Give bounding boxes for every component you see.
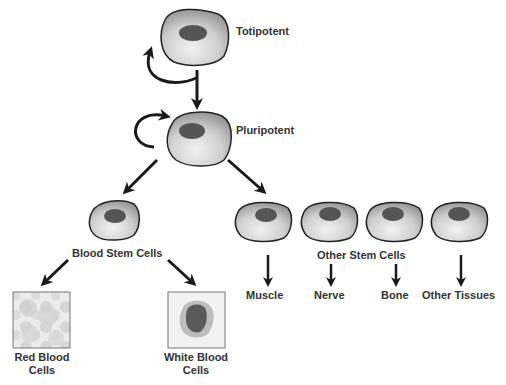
totipotent-label: Totipotent <box>236 25 289 38</box>
pluripotent-cell <box>167 112 231 166</box>
white-blood-line1: White Blood <box>160 351 232 364</box>
red-blood-cells-image <box>13 292 70 348</box>
totipotent-cell <box>161 9 228 65</box>
white-blood-cells-label: White Blood Cells <box>160 351 232 377</box>
bone-label: Bone <box>381 289 409 302</box>
red-blood-line1: Red Blood <box>10 351 74 364</box>
nerve-label: Nerve <box>314 289 345 302</box>
blood-stem-cells-label: Blood Stem Cells <box>72 247 162 260</box>
muscle-label: Muscle <box>246 289 283 302</box>
arrow-pluripotent-to-other <box>228 160 262 190</box>
muscle-stem-cell <box>235 202 291 241</box>
arrow-to-red-blood <box>45 260 68 282</box>
arrow-to-white-blood <box>168 260 192 282</box>
blood-stem-cell <box>89 201 139 240</box>
red-blood-line2: Cells <box>10 364 74 377</box>
nerve-stem-cell <box>301 202 357 241</box>
other-stem-cells-label: Other Stem Cells <box>317 249 406 262</box>
diagram-canvas <box>0 0 506 385</box>
other-tissues-label: Other Tissues <box>422 289 495 302</box>
self-renewal-arrow-pluripotent <box>136 115 165 147</box>
bone-stem-cell <box>366 202 422 241</box>
pluripotent-label: Pluripotent <box>236 124 294 137</box>
arrow-pluripotent-to-blood <box>127 160 157 190</box>
red-blood-cells-label: Red Blood Cells <box>10 351 74 377</box>
white-blood-line2: Cells <box>160 364 232 377</box>
white-blood-cell-image <box>168 292 225 348</box>
other-tissue-stem-cell <box>431 202 487 241</box>
